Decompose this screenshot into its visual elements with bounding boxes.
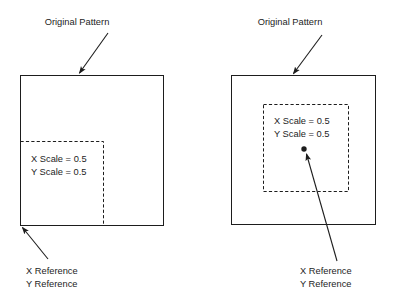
left-x-reference-label: X Reference <box>26 266 78 276</box>
left-original-pattern-arrow <box>80 33 109 73</box>
left-panel: Original Pattern X Scale = 0.5 Y Scale =… <box>21 17 164 289</box>
left-y-reference-label: Y Reference <box>26 279 78 289</box>
right-original-pattern-arrow <box>294 35 323 74</box>
right-panel: Original Pattern X Scale = 0.5 Y Scale =… <box>232 17 376 289</box>
right-y-reference-label: Y Reference <box>300 279 352 289</box>
right-x-scale-label: X Scale = 0.5 <box>274 116 330 126</box>
right-reference-point-dot <box>301 146 306 151</box>
right-reference-arrow <box>307 154 338 261</box>
left-original-pattern-box <box>21 76 164 226</box>
left-reference-arrow <box>23 228 49 260</box>
left-original-pattern-label: Original Pattern <box>45 17 110 27</box>
right-x-reference-label: X Reference <box>300 266 352 276</box>
right-original-pattern-label: Original Pattern <box>258 17 323 27</box>
right-y-scale-label: Y Scale = 0.5 <box>274 129 329 139</box>
left-y-scale-label: Y Scale = 0.5 <box>31 167 86 177</box>
diagram-canvas: Original Pattern X Scale = 0.5 Y Scale =… <box>0 0 398 305</box>
scaling-reference-diagram: Original Pattern X Scale = 0.5 Y Scale =… <box>0 0 398 305</box>
left-x-scale-label: X Scale = 0.5 <box>31 154 87 164</box>
